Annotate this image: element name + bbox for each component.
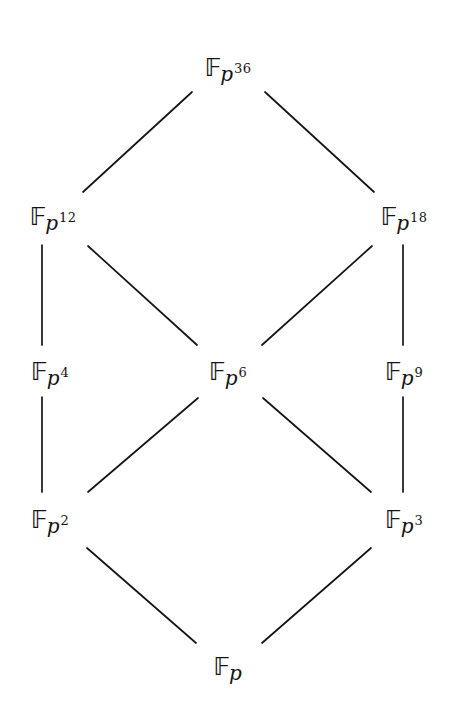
exponent: 36	[234, 61, 252, 76]
subscript-prime: p	[47, 366, 60, 390]
lattice-edge	[83, 92, 192, 192]
lattice-node-p12: 𝔽p12	[29, 203, 76, 228]
field-symbol: 𝔽	[380, 202, 397, 231]
lattice-node-p3: 𝔽p3	[385, 506, 423, 531]
lattice-edge	[262, 548, 371, 643]
lattice-edge	[263, 398, 371, 492]
lattice-node-p4: 𝔽p4	[31, 358, 69, 383]
field-symbol: 𝔽	[204, 53, 221, 82]
field-symbol: 𝔽	[213, 652, 230, 681]
lattice-node-p9: 𝔽p9	[385, 358, 423, 383]
subscript-prime: p	[229, 661, 242, 685]
subscript-prime: p	[220, 62, 233, 86]
exponent: 12	[59, 210, 77, 225]
lattice-edge	[262, 246, 372, 345]
lattice-edge	[88, 398, 198, 492]
exponent: 6	[238, 365, 247, 380]
exponent: 4	[60, 365, 69, 380]
field-symbol: 𝔽	[31, 357, 48, 386]
subscript-prime: p	[45, 211, 58, 235]
lattice-node-p18: 𝔽p18	[380, 203, 427, 228]
field-symbol: 𝔽	[385, 357, 402, 386]
subscript-prime: p	[47, 514, 60, 538]
subfield-lattice-diagram: 𝔽p36𝔽p12𝔽p18𝔽p4𝔽p6𝔽p9𝔽p2𝔽p3𝔽p	[0, 0, 456, 712]
field-symbol: 𝔽	[31, 505, 48, 534]
lattice-edge	[88, 246, 197, 345]
subscript-prime: p	[401, 514, 414, 538]
field-symbol: 𝔽	[385, 505, 402, 534]
exponent: 2	[60, 513, 69, 528]
subscript-prime: p	[401, 366, 414, 390]
subscript-prime: p	[396, 211, 409, 235]
exponent: 9	[414, 365, 423, 380]
subscript-prime: p	[225, 366, 238, 390]
lattice-edge	[87, 548, 196, 643]
exponent: 3	[414, 513, 423, 528]
field-symbol: 𝔽	[29, 202, 46, 231]
lattice-edge	[265, 92, 374, 192]
field-symbol: 𝔽	[209, 357, 226, 386]
lattice-node-p: 𝔽p	[213, 653, 243, 678]
exponent: 18	[410, 210, 428, 225]
lattice-node-p2: 𝔽p2	[31, 506, 69, 531]
lattice-node-p36: 𝔽p36	[204, 54, 251, 79]
lattice-node-p6: 𝔽p6	[209, 358, 247, 383]
